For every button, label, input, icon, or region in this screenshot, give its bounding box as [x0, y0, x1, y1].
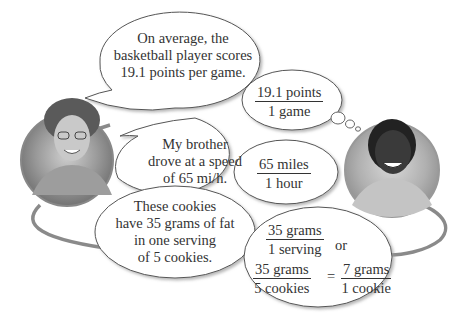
numerator: 19.1 points — [255, 84, 323, 102]
statement-line: basketball player scores — [108, 47, 258, 64]
statement-cookies: These cookies have 35 grams of fat in on… — [100, 198, 250, 266]
denominator: 1 serving — [268, 240, 322, 257]
equals-sign: = — [327, 268, 335, 285]
statement-line: These cookies — [100, 198, 250, 215]
statement-driving: My brother drove at a speed of 65 mi/h. — [130, 136, 260, 187]
fraction-fat-per-cookie: 7 grams 1 cookie — [341, 261, 391, 296]
fraction-speed: 65 miles 1 hour — [257, 156, 311, 191]
statement-line: of 5 cookies. — [100, 249, 250, 266]
denominator: 1 cookie — [341, 279, 391, 296]
fraction-points: 19.1 points 1 game — [255, 84, 323, 119]
denominator: 5 cookies — [254, 279, 309, 296]
statement-line: On average, the — [108, 30, 258, 47]
statement-basketball: On average, the basketball player scores… — [108, 30, 258, 81]
statement-line: have 35 grams of fat — [100, 215, 250, 232]
denominator: 1 game — [268, 102, 310, 119]
numerator: 35 grams — [266, 222, 324, 240]
numerator: 7 grams — [341, 261, 391, 279]
statement-line: of 65 mi/h. — [130, 170, 260, 187]
statement-line: in one serving — [100, 232, 250, 249]
denominator: 1 hour — [265, 174, 302, 191]
girl-portrait — [21, 98, 113, 206]
statement-line: My brother — [130, 136, 260, 153]
numerator: 35 grams — [253, 261, 311, 279]
fraction-fat-per-serving: 35 grams 1 serving — [266, 222, 324, 257]
statement-line: drove at a speed — [130, 153, 260, 170]
boy-portrait — [345, 119, 439, 217]
or-label: or — [335, 237, 347, 254]
numerator: 65 miles — [257, 156, 311, 174]
fraction-fat-per-5-cookies: 35 grams 5 cookies — [253, 261, 311, 296]
statement-line: 19.1 points per game. — [108, 64, 258, 81]
thought-dots — [331, 112, 361, 131]
